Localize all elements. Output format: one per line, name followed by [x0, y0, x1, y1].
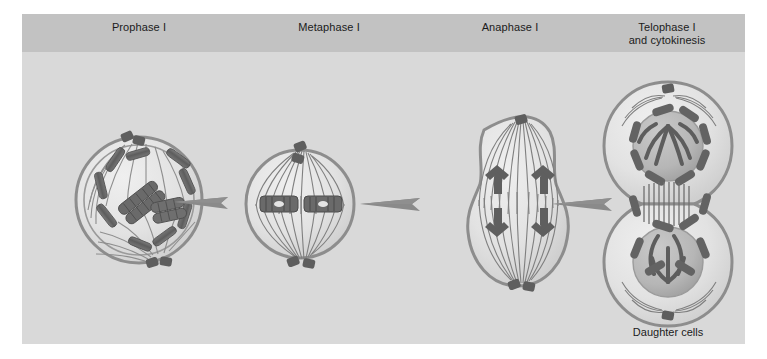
process-arrow-2 [360, 198, 420, 211]
centriole-icon [302, 258, 316, 269]
stage-prophase-i [76, 130, 202, 269]
centromere [318, 201, 328, 207]
stage-metaphase-i [246, 140, 354, 269]
centriole-icon [159, 256, 172, 267]
stage-telophase-i [604, 82, 732, 326]
stage-anaphase-i [468, 114, 569, 293]
homologous-pair [260, 196, 298, 212]
nucleus-daughter-upper [633, 111, 703, 181]
homologous-pair [304, 196, 342, 212]
meiosis-illustration [22, 14, 745, 344]
figure-panel: Prophase I Metaphase I Anaphase I Teloph… [22, 14, 745, 344]
centromere [274, 201, 284, 207]
